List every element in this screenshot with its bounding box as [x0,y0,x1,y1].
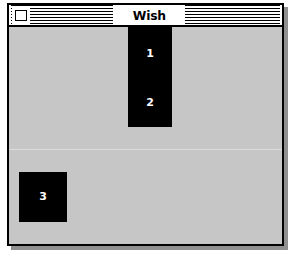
frame-label-2: 2 [128,96,172,109]
frame-label-3: 3 [19,190,67,203]
window-titlebar[interactable]: Wish [9,5,282,27]
canvas-divider [9,149,282,150]
window-title: Wish [133,9,166,22]
frame-label-1: 1 [128,47,172,60]
wish-window: Wish 1 2 3 [7,3,284,246]
window-title-area: Wish [113,5,185,25]
close-box-icon[interactable] [15,10,27,21]
window-canvas: 1 2 3 [9,27,282,244]
screen: Wish 1 2 3 [0,0,297,278]
frame-block-left[interactable]: 3 [19,172,67,222]
frame-block-top[interactable]: 1 2 [128,27,172,127]
titlebar-stripes-right [183,5,280,25]
